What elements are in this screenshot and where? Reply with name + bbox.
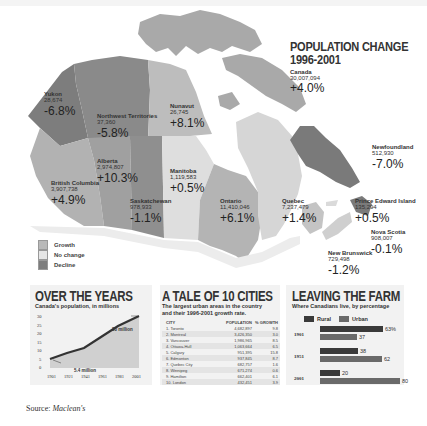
label-nwt: Northwest Territories 37,360 -5.8% [97,113,157,139]
annotation-end: 30 million [112,327,133,332]
over-years-title: OVER THE YEARS [35,289,127,303]
label-quebec: Quebec 7,237,479 +1.4% [282,198,316,224]
table-row: 7. Quebec City682,7571.6 [162,361,280,367]
cities-subtitle-1: The largest urban areas in the country [162,303,278,310]
svg-text:2001: 2001 [132,374,141,379]
source-name: Maclean's [52,404,85,413]
table-header: CITY POPULATION % GROWTH [162,319,280,325]
svg-text:15: 15 [37,340,42,345]
svg-text:1921: 1921 [64,374,73,379]
title-block: POPULATION CHANGE 1996-2001 Canada 30,00… [290,40,427,95]
svg-text:5: 5 [39,357,42,362]
arctic-islands [138,10,262,56]
label-nova-scotia: Nova Scotia 908,007 -0.1% [371,229,405,255]
svg-text:30: 30 [37,314,42,319]
table-row: 2. Montreal3,426,3503.0 [162,331,280,337]
svg-text:1901: 1901 [47,374,56,379]
svg-text:1941: 1941 [81,374,90,379]
legend-growth: Growth [38,240,85,250]
panel-ten-cities: A TALE OF 10 CITIES The largest urban ar… [160,285,280,385]
table-row: 6. Edmonton937,8458.7 [162,355,280,361]
label-alberta: Alberta 2,974,807 +10.3% [97,158,138,184]
bar-urban-2001 [320,378,400,384]
bar-group-2001: 2001 20 80 [292,369,398,391]
table-row: 10. London432,4513.9 [162,379,280,385]
label-ontario: Ontario 11,410,046 +6.1% [220,198,254,224]
table-row: 8. Winnipeg671,2740.6 [162,367,280,373]
title-line2: 1996-2001 [290,53,408,66]
farm-title: LEAVING THE FARM [292,289,379,303]
farm-legend: Rural Urban [304,316,398,322]
table-row: 9. Hamilton662,4016.1 [162,373,280,379]
map-legend: Growth No change Decline [38,240,85,270]
bar-group-1901: 1901 63% 37 [292,325,398,347]
region-pei [326,200,338,206]
region-nova-scotia [322,212,352,240]
bar-rural-1951 [320,348,358,354]
cities-subtitle-2: and their 1996-2001 growth rate. [162,310,278,317]
table-row: 5. Calgary951,39515.8 [162,349,280,355]
population-area-chart: 30 25 20 15 10 5 0 1901 1921 1941 1961 1… [35,312,147,384]
legend-urban: Urban [339,316,368,322]
bar-urban-1951 [320,356,382,362]
label-new-brunswick: New Brunswick 729,498 -1.2% [328,250,372,276]
label-bc: British Columbia 3,907,738 +4.9% [51,180,99,206]
cities-title: A TALE OF 10 CITIES [162,289,257,303]
table-row: 4. Ottawa-Hull1,063,6646.5 [162,343,280,349]
southampton [218,92,240,110]
svg-text:1981: 1981 [115,374,124,379]
legend-no-change: No change [38,250,85,260]
label-nunavut: Nunavut 26,745 +8.1% [170,103,204,129]
label-manitoba: Manitoba 1,119,583 +0.5% [170,168,204,194]
rural-swatch [304,316,314,322]
label-saskatchewan: Saskatchewan 978,933 -1.1% [130,198,171,224]
svg-text:20: 20 [37,331,42,336]
bar-rural-2001 [320,370,340,376]
table-row: 3. Vancouver1,986,9658.5 [162,337,280,343]
bar-rural-1901 [320,326,383,332]
legend-swatch-no-change [38,250,48,260]
label-newfoundland: Newfoundland 512,930 -7.0% [372,144,413,170]
bar-group-1951: 1951 38 62 [292,347,398,369]
panel-over-the-years: OVER THE YEARS Canada's population, in m… [30,285,152,385]
svg-text:1961: 1961 [98,374,107,379]
annotation-start: 5.4 million [74,368,96,373]
over-years-subtitle: Canada's population, in millions [35,303,147,310]
label-pei: Prince Edward Island 135,294 +0.5% [355,198,416,224]
svg-text:25: 25 [37,323,42,328]
legend-swatch-growth [38,240,48,250]
svg-text:10: 10 [37,348,42,353]
legend-rural: Rural [304,316,331,322]
panel-leaving-farm: LEAVING THE FARM Where Canadians live, b… [286,285,404,385]
legend-swatch-decline [38,260,48,270]
farm-subtitle: Where Canadians live, by percentage [292,303,398,310]
legend-decline: Decline [38,260,85,270]
label-yukon: Yukon 28,674 -6.8% [44,91,75,117]
cities-table: CITY POPULATION % GROWTH 1. Toronto4,682… [162,319,280,385]
source-note: Source: Maclean's [26,404,85,413]
national-change: +4.0% [290,81,427,95]
urban-swatch [339,316,349,322]
table-row: 1. Toronto4,682,8979.8 [162,325,280,331]
bar-urban-1901 [320,334,357,340]
svg-text:0: 0 [39,365,42,370]
